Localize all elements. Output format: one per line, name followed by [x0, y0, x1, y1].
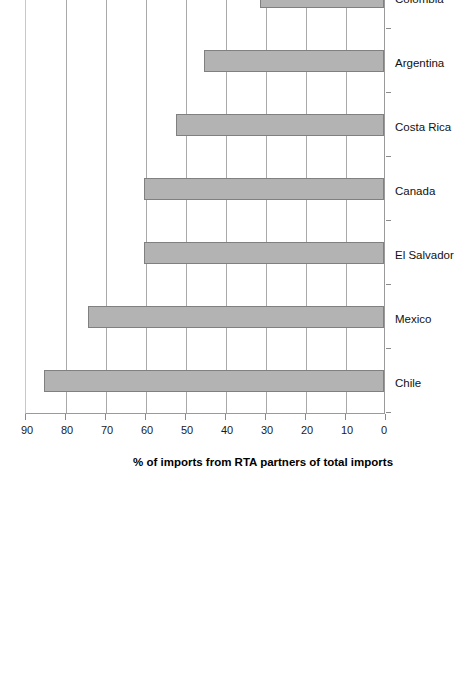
value-tick-mark [265, 414, 266, 420]
category-label: Canada [395, 185, 435, 197]
value-tick-label: 50 [181, 424, 193, 436]
category-label: Costa Rica [395, 121, 451, 133]
category-label: El Salvador [395, 249, 454, 261]
value-tick-mark [65, 414, 66, 420]
category-tick-mark [386, 220, 391, 221]
category-tick-mark [386, 412, 391, 413]
value-tick-label: 80 [61, 424, 73, 436]
value-tick-label: 20 [301, 424, 313, 436]
value-tick-mark [385, 414, 386, 420]
category-tick-mark [386, 348, 391, 349]
bar [176, 114, 384, 136]
value-tick-mark [345, 414, 346, 420]
value-tick-mark [185, 414, 186, 420]
value-tick-mark [25, 414, 26, 420]
value-axis-title: % of imports from RTA partners of total … [133, 456, 393, 468]
value-tick-label: 0 [381, 424, 387, 436]
category-label: Argentina [395, 57, 444, 69]
value-tick-label: 40 [221, 424, 233, 436]
category-tick-mark [386, 92, 391, 93]
value-tick-mark [105, 414, 106, 420]
value-tick-label: 30 [261, 424, 273, 436]
bar [144, 178, 384, 200]
value-tick-label: 70 [101, 424, 113, 436]
bar [204, 50, 384, 72]
value-tick-label: 10 [341, 424, 353, 436]
category-tick-mark [386, 284, 391, 285]
gridline [146, 0, 147, 413]
bar [260, 0, 384, 8]
plot-area [25, 0, 385, 414]
gridline [186, 0, 187, 413]
chart-canvas: 0102030405060708090 ChileMexicoEl Salvad… [0, 0, 436, 436]
category-label: Colombia [395, 0, 444, 5]
bar [88, 306, 384, 328]
value-tick-label: 90 [21, 424, 33, 436]
value-tick-mark [225, 414, 226, 420]
category-label: Mexico [395, 313, 431, 325]
gridline [66, 0, 67, 413]
gridline [106, 0, 107, 413]
value-tick-mark [305, 414, 306, 420]
value-tick-label: 60 [141, 424, 153, 436]
category-tick-mark [386, 156, 391, 157]
category-tick-mark [386, 28, 391, 29]
bar [44, 370, 384, 392]
bar [144, 242, 384, 264]
category-label: Chile [395, 377, 421, 389]
value-tick-mark [145, 414, 146, 420]
